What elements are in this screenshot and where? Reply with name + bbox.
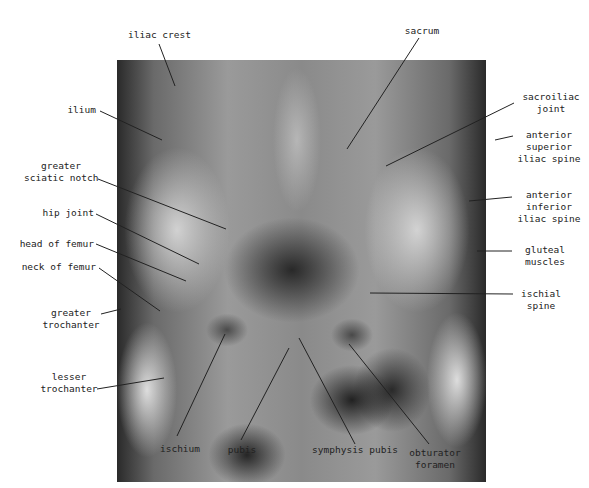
label-lesser-trochanter: lesser trochanter: [38, 371, 100, 395]
label-line: obturator: [405, 447, 465, 459]
leader-neck-of-femur: [99, 268, 160, 311]
label-line: joint: [514, 103, 588, 115]
leader-ilium: [100, 111, 162, 140]
leader-greater-sciatic-notch: [98, 179, 226, 229]
label-line: inferior: [510, 201, 588, 213]
label-gluteal-muscles: gluteal muscles: [512, 244, 578, 268]
label-line: iliac spine: [510, 213, 588, 225]
leader-ischial-spine: [370, 293, 513, 294]
label-line: lesser: [38, 371, 100, 383]
label-symphysis-pubis: symphysis pubis: [302, 444, 408, 456]
label-iliac-crest: iliac crest: [128, 29, 190, 41]
label-line: foramen: [405, 459, 465, 471]
label-ischial-spine: ischial spine: [512, 288, 570, 312]
leader-hip-joint: [96, 214, 199, 264]
label-line: greater: [40, 307, 102, 319]
label-anterior-inferior-iliac-spine: anterior inferior iliac spine: [510, 189, 588, 225]
label-anterior-superior-iliac-spine: anterior superior iliac spine: [510, 129, 588, 165]
label-line: trochanter: [40, 319, 102, 331]
leader-symphysis-pubis: [299, 338, 355, 444]
label-greater-sciatic-notch: greater sciatic notch: [24, 160, 98, 184]
label-line: anterior: [510, 129, 588, 141]
label-line: sciatic notch: [24, 172, 98, 184]
leader-ischium: [177, 334, 225, 436]
label-ilium: ilium: [40, 104, 96, 116]
leader-iliac-crest: [159, 44, 175, 86]
label-obturator-foramen: obturator foramen: [405, 447, 465, 471]
label-sacroiliac-joint: sacroiliac joint: [514, 91, 588, 115]
label-line: trochanter: [38, 383, 100, 395]
leader-pubis: [241, 348, 289, 440]
label-line: greater: [24, 160, 98, 172]
leader-sacroiliac-joint: [386, 103, 514, 166]
label-line: muscles: [512, 256, 578, 268]
label-line: gluteal: [512, 244, 578, 256]
leader-obturator-foramen: [349, 344, 429, 444]
leader-sacrum: [347, 38, 419, 149]
label-line: superior: [510, 141, 588, 153]
label-hip-joint: hip joint: [20, 207, 94, 219]
label-line: spine: [512, 300, 570, 312]
label-ischium: ischium: [150, 443, 210, 455]
label-line: iliac spine: [510, 153, 588, 165]
label-sacrum: sacrum: [400, 25, 444, 37]
leader-lesser-trochanter: [97, 378, 164, 389]
label-line: ischial: [512, 288, 570, 300]
label-head-of-femur: head of femur: [10, 238, 94, 250]
label-greater-trochanter: greater trochanter: [40, 307, 102, 331]
leader-aiis: [469, 197, 512, 201]
leader-greater-trochanter: [101, 309, 121, 314]
label-line: sacroiliac: [514, 91, 588, 103]
label-neck-of-femur: neck of femur: [10, 261, 96, 273]
label-line: anterior: [510, 189, 588, 201]
label-pubis: pubis: [222, 444, 262, 456]
